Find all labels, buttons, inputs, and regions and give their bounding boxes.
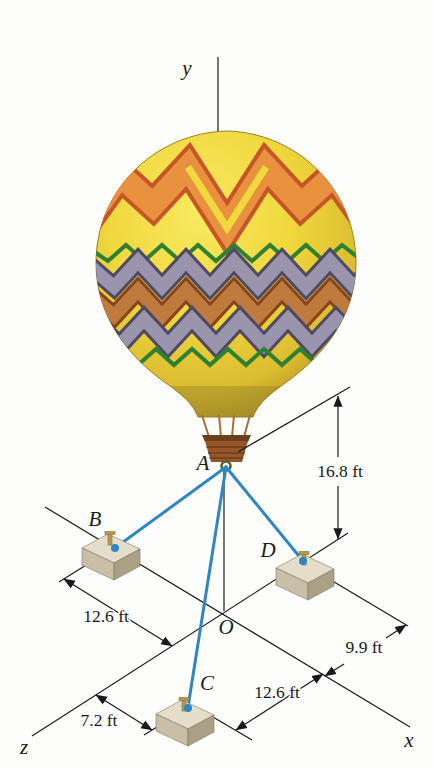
cable-attach-c	[184, 704, 192, 712]
point-label-a: A	[195, 451, 210, 475]
point-label-b: B	[89, 507, 102, 531]
cable-attach-d	[299, 557, 307, 565]
dim-label-c-z: 12.6 ft	[254, 682, 300, 702]
dim-label-b-x: 12.6 ft	[83, 606, 129, 626]
point-label-c: C	[200, 671, 215, 695]
cable-a-to-b	[115, 467, 226, 548]
balloon-diagram-svg: y x z A B C D O 16.8 ft 12.6 ft 9.9 ft 1…	[0, 0, 433, 768]
anchor-block-d	[276, 552, 334, 601]
dim-label-height-a: 16.8 ft	[317, 461, 363, 481]
dim-label-d-z: 9.9 ft	[346, 637, 383, 657]
z-axis-label: z	[19, 735, 28, 759]
anchor-block-c	[156, 698, 214, 747]
cable-attach-b	[111, 544, 119, 552]
point-label-o: O	[218, 615, 233, 639]
throat-shading	[140, 386, 310, 420]
balloon-statics-figure: y x z A B C D O 16.8 ft 12.6 ft 9.9 ft 1…	[0, 0, 433, 768]
anchor-block-b	[82, 532, 140, 581]
y-axis-label: y	[180, 56, 192, 80]
dim-label-c-x: 7.2 ft	[81, 710, 118, 730]
dim-d-offset-upper	[386, 625, 406, 638]
hot-air-balloon-illustration	[82, 131, 372, 471]
point-label-d: D	[259, 538, 275, 562]
basket-ropes	[202, 415, 250, 437]
x-axis-label: x	[403, 728, 414, 752]
dim-d-offset-lower	[325, 664, 344, 676]
